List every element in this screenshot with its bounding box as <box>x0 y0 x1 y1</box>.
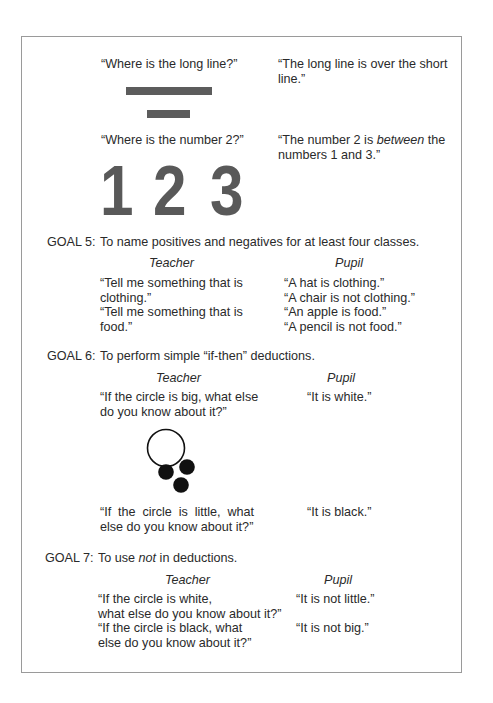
goal6-a1: “It is white.” <box>307 390 371 405</box>
goal5-teacher-line-4: food.” <box>100 320 132 335</box>
goal5-pupil-header: Pupil <box>335 256 363 271</box>
goal6-q1-line-1: “If the circle is big, what else <box>100 390 258 405</box>
goal5-text: To name positives and negatives for at l… <box>100 235 419 250</box>
digit-1: 1 <box>100 156 133 226</box>
digit-3: 3 <box>210 156 243 226</box>
goal7-q2-line-1: “If the circle is black, what <box>98 621 242 636</box>
goal7-q1-line-2: what else do you know about it?” <box>98 607 281 622</box>
goal6-label: GOAL 6: <box>47 349 96 364</box>
circles-figure <box>140 420 210 500</box>
goal6-q2-line-2: else do you know about it?” <box>100 520 253 535</box>
answer-number-2-1: “The number 2 is between the <box>278 133 445 148</box>
long-line-figure <box>126 87 212 95</box>
goal6-q2-line-1: “If the circle is little, what <box>100 505 254 520</box>
goal7-a1: “It is not little.” <box>296 592 374 607</box>
goal6-pupil-header: Pupil <box>327 371 355 386</box>
small-black-circle-icon <box>179 459 195 475</box>
question-long-line: “Where is the long line?” <box>101 57 238 72</box>
goal5-teacher-header: Teacher <box>149 256 194 271</box>
answer-long-line-2: line.” <box>278 72 305 87</box>
short-line-figure <box>147 110 190 118</box>
goal5-pupil-line-2: “A chair is not clothing.” <box>284 291 415 306</box>
goal7-q1-line-1: “If the circle is white, <box>98 592 212 607</box>
goal7-label: GOAL 7: <box>45 551 94 566</box>
goal5-teacher-line-3: “Tell me something that is <box>100 305 243 320</box>
goal6-q1-line-2: do you know about it?” <box>100 405 227 420</box>
goal5-pupil-line-3: “An apple is food.” <box>284 305 386 320</box>
goal7-text: To use not in deductions. <box>98 551 237 566</box>
goal5-label: GOAL 5: <box>47 235 96 250</box>
goal7-q2-line-2: else do you know about it?” <box>98 636 251 651</box>
digit-2: 2 <box>153 156 186 226</box>
goal7-a2: “It is not big.” <box>296 621 369 636</box>
goal5-pupil-line-1: “A hat is clothing.” <box>284 276 384 291</box>
goal5-pupil-line-4: “A pencil is not food.” <box>284 320 402 335</box>
answer-long-line-1: “The long line is over the short <box>278 57 447 72</box>
goal5-teacher-line-1: “Tell me something that is <box>100 276 243 291</box>
question-number-2: “Where is the number 2?” <box>101 133 244 148</box>
goal6-text: To perform simple “if-then” deductions. <box>100 349 315 364</box>
goal7-teacher-header: Teacher <box>165 573 210 588</box>
goal6-a2: “It is black.” <box>307 505 371 520</box>
small-black-circle-icon <box>158 464 174 480</box>
big-white-circle-icon <box>148 430 185 467</box>
small-black-circle-icon <box>173 477 189 493</box>
goal7-pupil-header: Pupil <box>324 573 352 588</box>
goal5-teacher-line-2: clothing.” <box>100 291 151 306</box>
answer-number-2-2: numbers 1 and 3.” <box>278 148 380 163</box>
goal6-teacher-header: Teacher <box>156 371 201 386</box>
